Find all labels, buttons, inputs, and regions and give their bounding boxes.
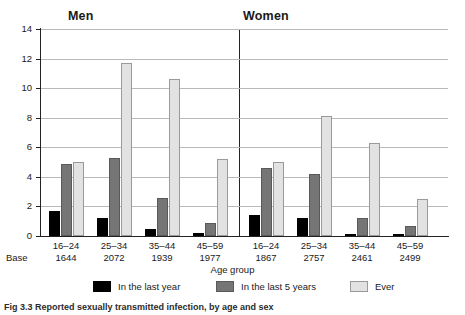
- base-value-women-45–59: 2499: [384, 252, 436, 263]
- legend-label-in-the-last-year: In the last year: [118, 281, 180, 292]
- bar-ever-men-35–44: [169, 79, 180, 236]
- bar-five-women-25–34: [309, 174, 320, 236]
- bar-year-women-35–44: [345, 234, 356, 236]
- y-tick-label-2: 2: [6, 200, 32, 211]
- legend: In the last year In the last 5 years Eve…: [0, 281, 465, 295]
- y-tick-label-4: 4: [6, 171, 32, 182]
- bar-five-men-45–59: [205, 223, 216, 236]
- category-label-men-25–34: 25–34: [88, 240, 140, 251]
- x-axis-line: [40, 236, 449, 237]
- y-tick-label-10: 10: [6, 82, 32, 93]
- base-value-men-45–59: 1977: [184, 252, 236, 263]
- bar-year-men-45–59: [193, 233, 204, 236]
- panel-title-men: Men: [68, 9, 94, 23]
- bar-ever-women-25–34: [321, 116, 332, 236]
- bar-five-men-35–44: [157, 198, 168, 236]
- bar-group-women-45–59: [393, 29, 433, 236]
- bar-five-women-35–44: [357, 218, 368, 236]
- base-label: Base: [6, 252, 28, 263]
- base-value-women-35–44: 2461: [336, 252, 388, 263]
- bar-five-women-16–24: [261, 168, 272, 236]
- bar-five-men-16–24: [61, 164, 72, 236]
- y-tick-label-0: 0: [6, 230, 32, 241]
- legend-label-ever: Ever: [375, 281, 395, 292]
- legend-item-in-the-last-5-years: In the last 5 years: [216, 281, 316, 292]
- bar-year-men-35–44: [145, 229, 156, 236]
- y-tick-0: [36, 236, 41, 237]
- bar-group-men-45–59: [193, 29, 233, 236]
- bar-group-women-16–24: [249, 29, 289, 236]
- bar-group-men-35–44: [145, 29, 185, 236]
- bar-ever-men-16–24: [73, 162, 84, 236]
- figure-caption: Fig 3.3 Reported sexually transmitted in…: [4, 302, 274, 312]
- legend-swatch-in-the-last-5-years: [216, 281, 234, 292]
- legend-item-in-the-last-year: In the last year: [93, 281, 180, 292]
- bar-group-women-25–34: [297, 29, 337, 236]
- bar-year-men-16–24: [49, 211, 60, 236]
- legend-label-in-the-last-5-years: In the last 5 years: [241, 281, 316, 292]
- category-label-women-25–34: 25–34: [288, 240, 340, 251]
- y-tick-label-8: 8: [6, 112, 32, 123]
- y-tick-label-6: 6: [6, 141, 32, 152]
- category-label-women-35–44: 35–44: [336, 240, 388, 251]
- bar-ever-women-35–44: [369, 143, 380, 236]
- panel-title-women: Women: [243, 9, 289, 23]
- bar-year-women-25–34: [297, 218, 308, 236]
- y-tick-label-14: 14: [6, 23, 32, 34]
- bar-ever-men-45–59: [217, 159, 228, 236]
- base-value-women-16–24: 1867: [240, 252, 292, 263]
- base-value-men-25–34: 2072: [88, 252, 140, 263]
- bar-group-men-25–34: [97, 29, 137, 236]
- base-value-women-25–34: 2757: [288, 252, 340, 263]
- bar-year-women-45–59: [393, 234, 404, 236]
- bar-ever-men-25–34: [121, 63, 132, 236]
- bar-ever-women-16–24: [273, 162, 284, 236]
- y-tick-label-12: 12: [6, 53, 32, 64]
- bar-five-men-25–34: [109, 158, 120, 236]
- category-label-men-16–24: 16–24: [40, 240, 92, 251]
- category-label-men-35–44: 35–44: [136, 240, 188, 251]
- figure-sti-by-age-and-sex: Men Women Percentage 02468101214 16–2425…: [0, 0, 465, 315]
- base-value-men-16–24: 1644: [40, 252, 92, 263]
- category-label-men-45–59: 45–59: [184, 240, 236, 251]
- bar-five-women-45–59: [405, 226, 416, 236]
- bar-year-men-25–34: [97, 218, 108, 236]
- legend-swatch-ever: [350, 281, 368, 292]
- category-label-women-45–59: 45–59: [384, 240, 436, 251]
- bar-group-women-35–44: [345, 29, 385, 236]
- bar-group-men-16–24: [49, 29, 89, 236]
- base-value-men-35–44: 1939: [136, 252, 188, 263]
- bars-layer: [41, 29, 448, 236]
- category-label-women-16–24: 16–24: [240, 240, 292, 251]
- bar-ever-women-45–59: [417, 199, 428, 236]
- bar-year-women-16–24: [249, 215, 260, 236]
- x-axis-title: Age group: [0, 264, 465, 275]
- legend-swatch-in-the-last-year: [93, 281, 111, 292]
- legend-item-ever: Ever: [350, 281, 395, 292]
